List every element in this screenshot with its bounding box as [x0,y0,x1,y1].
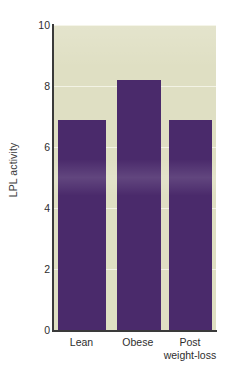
y-axis-tick-label: 2 [26,264,50,275]
y-axis-tick-label: 6 [26,142,50,153]
plot-area [53,25,216,330]
y-axis-line [52,24,54,331]
x-axis-tick-labels: LeanObesePost weight-loss [53,336,216,369]
bar [117,80,161,330]
gridline [53,25,216,26]
y-axis-tick-label: 8 [26,81,50,92]
y-axis-title-label: LPL activity [7,143,19,198]
y-axis-tick-label: 10 [26,20,50,31]
bar [58,120,106,330]
y-axis-tick-label: 4 [26,203,50,214]
y-axis-tick-label: 0 [26,325,50,336]
y-axis-title: LPL activity [0,0,26,340]
x-axis-tick-label: Post weight-loss [108,336,230,362]
bar [169,120,212,330]
y-axis-tick-labels: 0246810 [26,0,50,369]
x-axis-line [52,330,217,332]
bar-chart-figure: LPL activity 0246810 LeanObesePost weigh… [0,0,230,369]
